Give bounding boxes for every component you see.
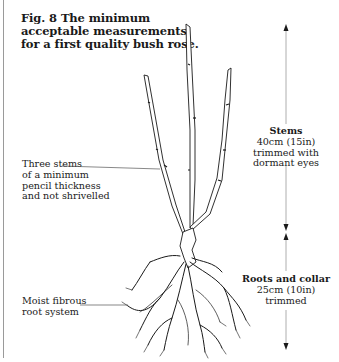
measurement-axis bbox=[284, 24, 289, 350]
arrow-down-icon bbox=[284, 224, 289, 231]
stems-leader-line bbox=[62, 166, 160, 169]
root-system bbox=[122, 255, 250, 358]
bush-rose-illustration bbox=[0, 0, 339, 362]
arrow-up-icon bbox=[284, 24, 289, 31]
arrow-down-icon bbox=[284, 343, 289, 350]
arrow-up-icon bbox=[284, 233, 289, 240]
rose-stems bbox=[144, 24, 231, 268]
